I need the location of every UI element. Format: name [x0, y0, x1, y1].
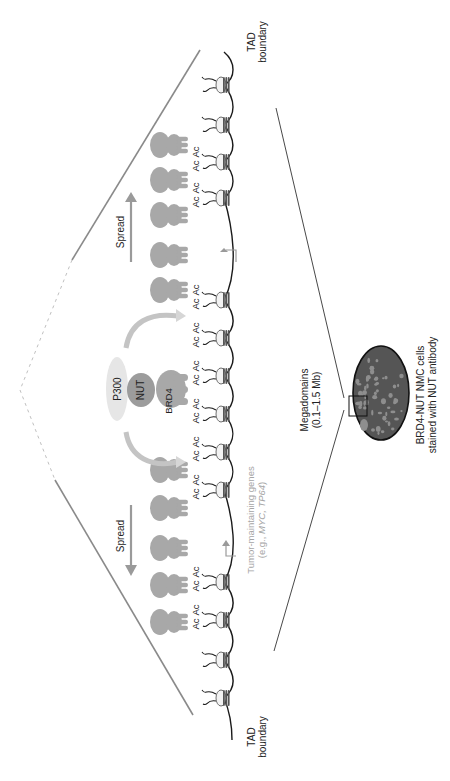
brd4-nut-complex [150, 609, 188, 635]
acetyl-label: Ac [190, 566, 201, 577]
brd4-nut-complex [150, 167, 188, 193]
acetyl-label: Ac [190, 412, 201, 423]
nucleosome [202, 190, 230, 206]
acetyl-label: Ac [190, 618, 201, 629]
tad-boundary-bottom-line1: TAD [246, 727, 257, 746]
nucleosome [202, 690, 230, 706]
p300-label: P300 [112, 377, 123, 401]
spread-arrow-upper [125, 192, 137, 262]
megadomains-line1: Megadomains [299, 369, 310, 432]
acetyl-label: Ac [190, 436, 201, 447]
brd4-nut-megadomain-diagram: AcAcAcAcAcAcAcAcAcAcAcAcAcAcAcAcAcAcAcAc… [0, 0, 450, 781]
acetyl-label: Ac [190, 182, 201, 193]
tumor-genes-line1: Tumor-maintaining genes [245, 466, 256, 574]
recruit-arrow-upper [126, 315, 178, 348]
cells-line2: stained with NUT antibody [427, 337, 438, 454]
tad-boundary-bottom: TAD boundary [246, 716, 268, 758]
tumor-genes-label: Tumor-maintaining genes (e.g., MYC, TP64… [245, 466, 267, 574]
tad-boundary-top: TAD boundary [246, 21, 268, 63]
cells-line1: BRD4-NUT NMC cells [415, 346, 426, 445]
brd4-nut-complex [150, 132, 188, 158]
nucleosome [202, 330, 230, 346]
tad-boundary-top-line1: TAD [246, 32, 257, 51]
nucleosome-group [202, 77, 230, 706]
nucleosome [202, 154, 230, 170]
nucleosome [202, 406, 230, 422]
acetyl-marks-group: AcAcAcAcAcAcAcAcAcAcAcAcAcAcAcAcAcAcAcAc [190, 146, 201, 629]
acetyl-label: Ac [190, 398, 201, 409]
nucleosome [202, 77, 230, 93]
acetyl-label: Ac [190, 374, 201, 385]
nucleosome [202, 444, 230, 460]
nucleosome [202, 574, 230, 590]
brd4-label: BRD4 [163, 388, 174, 413]
brd4-nut-complex [150, 202, 188, 228]
spread-label-upper: Spread [115, 216, 126, 248]
nut-label: NUT [135, 380, 146, 401]
acetyl-label: Ac [190, 196, 201, 207]
brd4-nut-complex [150, 495, 188, 521]
megadomains-line2: (0.1–1.5 Mb) [311, 372, 322, 429]
tad-boundary-bottom-line2: boundary [257, 716, 268, 758]
acetyl-label: Ac [190, 474, 201, 485]
nucleosome [202, 482, 230, 498]
spread-label-lower: Spread [115, 520, 126, 552]
brd4-nut-complex [150, 277, 188, 303]
tumor-genes-line2: (e.g., MYC, TP64) [256, 482, 267, 559]
nmc-cell-nucleus [349, 346, 409, 440]
tad-boundary-top-line2: boundary [257, 21, 268, 63]
brd4-nut-complex [150, 535, 188, 561]
acetyl-label: Ac [190, 488, 201, 499]
nucleosome [202, 117, 230, 133]
nucleosome [202, 292, 230, 308]
brd4-nut-complex [150, 242, 188, 268]
recruit-arrow-lower [126, 432, 178, 464]
megadomains-label: Megadomains (0.1–1.5 Mb) [299, 369, 322, 432]
acetyl-label: Ac [190, 336, 201, 347]
acetyl-label: Ac [190, 146, 201, 157]
spread-arrow-lower [125, 505, 137, 576]
acetyl-label: Ac [190, 160, 201, 171]
nucleosome [202, 368, 230, 384]
nucleosome [202, 612, 230, 628]
cell-caption: BRD4-NUT NMC cells stained with NUT anti… [415, 337, 438, 454]
acetyl-label: Ac [190, 604, 201, 615]
brd4-nut-complex [150, 572, 188, 598]
acetyl-label: Ac [190, 360, 201, 371]
acetyl-label: Ac [190, 298, 201, 309]
acetyl-label: Ac [190, 580, 201, 591]
nucleosome [202, 652, 230, 668]
acetyl-label: Ac [190, 284, 201, 295]
acetyl-label: Ac [190, 450, 201, 461]
acetyl-label: Ac [190, 322, 201, 333]
